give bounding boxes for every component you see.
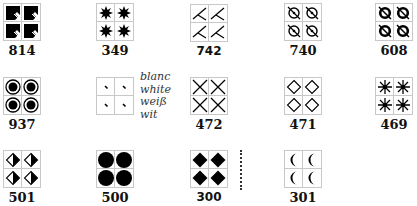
symbol-grid [190,4,228,42]
white-legend: blanc white weiß wit [140,71,171,121]
symbol-grid [96,150,134,188]
half-filled-diamond-icon [5,170,21,186]
swatch-code: 300 [180,190,238,204]
filled-diamond-icon [210,152,226,168]
crescent-icon [286,152,302,168]
swatch-white [96,77,134,115]
circle-dot-slash-icon [286,5,302,21]
swatch-code: 301 [274,190,332,205]
bold-circle-slash-icon [377,23,393,39]
symbol-grid [96,3,134,41]
filled-circle-icon [98,170,114,186]
filled-circle-icon [116,170,132,186]
symbol-grid [190,77,228,115]
tick-icon [116,97,132,113]
swatch-937: 937 [3,77,41,115]
tick-icon [116,79,132,95]
filled-square-notch-icon [5,5,21,21]
filled-diamond-icon [210,170,226,186]
diamond-outline-icon [304,79,320,95]
swatch-code: 471 [274,117,332,132]
x-cross-icon [192,97,208,113]
diamond-outline-icon [304,97,320,113]
filled-square-notch-icon [23,5,39,21]
x-cross-icon [192,79,208,95]
bullseye-icon [5,97,21,113]
asterisk-star-icon [377,97,393,113]
swatch-814: 814 [3,3,41,41]
tick-icon [98,97,114,113]
star-icon [116,23,132,39]
asterisk-star-icon [377,79,393,95]
legend-german: weiß [140,96,171,109]
crescent-icon [304,152,320,168]
symbol-grid [3,3,41,41]
circle-dot-slash-icon [304,23,320,39]
symbol-grid [3,150,41,188]
star-icon [98,5,114,21]
symbol-grid [190,150,228,188]
bullseye-icon [5,79,21,95]
swatch-471: 471 [284,77,322,115]
bullseye-icon [23,97,39,113]
x-cross-icon [210,97,226,113]
swatch-740: 740 [284,3,322,41]
filled-circle-icon [116,152,132,168]
angled-stroke-icon [210,6,226,22]
bullseye-icon [23,79,39,95]
swatch-code: 937 [0,117,51,132]
swatch-code: 349 [86,43,144,58]
x-cross-icon [210,79,226,95]
crescent-icon [286,170,302,186]
swatch-code: 472 [180,117,238,132]
angled-stroke-icon [192,6,208,22]
legend-dutch: wit [140,109,171,122]
swatch-500: 500 [96,150,134,188]
filled-square-notch-icon [23,23,39,39]
half-filled-diamond-icon [23,152,39,168]
swatch-501: 501 [3,150,41,188]
tick-icon [98,79,114,95]
symbol-grid [3,77,41,115]
swatch-300: 300 [190,150,228,188]
star-icon [116,5,132,21]
symbol-grid [284,77,322,115]
symbol-grid [375,77,413,115]
angled-stroke-icon [210,24,226,40]
filled-diamond-icon [192,152,208,168]
diamond-outline-icon [286,79,302,95]
symbol-grid [375,3,413,41]
swatch-301: 301 [284,150,322,188]
bold-circle-slash-icon [395,5,411,21]
filled-square-notch-icon [5,23,21,39]
symbol-grid [284,3,322,41]
swatch-472: 472 [190,77,228,115]
diamond-outline-icon [286,97,302,113]
legend-french: blanc [140,71,171,84]
swatch-608: 608 [375,3,413,41]
symbol-grid [284,150,322,188]
circle-dot-slash-icon [286,23,302,39]
circle-dot-slash-icon [304,5,320,21]
swatch-code: 500 [86,190,144,205]
asterisk-star-icon [395,97,411,113]
bold-circle-slash-icon [377,5,393,21]
swatch-code: 608 [365,43,417,58]
filled-circle-icon [98,152,114,168]
dotted-separator [240,150,242,190]
swatch-469: 469 [375,77,413,115]
swatch-742: 742 [190,4,228,42]
crescent-icon [304,170,320,186]
swatch-code: 814 [0,43,51,58]
symbol-grid [96,77,134,115]
swatch-code: 501 [0,190,51,205]
swatch-code: 740 [274,43,332,58]
half-filled-diamond-icon [5,152,21,168]
asterisk-star-icon [395,79,411,95]
swatch-349: 349 [96,3,134,41]
angled-stroke-icon [192,24,208,40]
swatch-code: 469 [365,117,417,132]
swatch-code: 742 [180,44,238,58]
star-icon [98,23,114,39]
filled-diamond-icon [192,170,208,186]
